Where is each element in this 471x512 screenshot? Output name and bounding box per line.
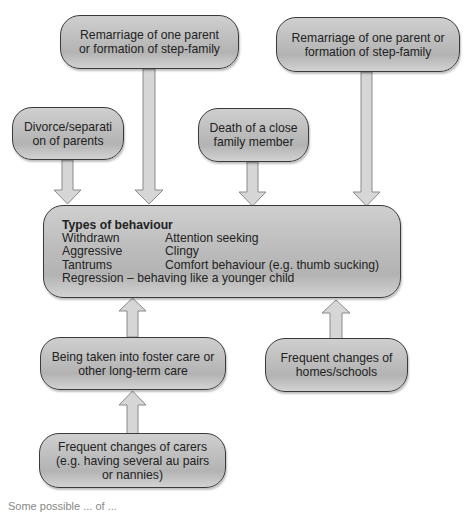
- cause-text: other long-term care: [52, 364, 215, 378]
- cause-box-homes-schools: Frequent changes of homes/schools: [265, 338, 408, 392]
- behaviour-item: Aggressive: [62, 245, 165, 258]
- behaviour-row: Aggressive Clingy: [62, 245, 400, 258]
- figure-caption: Some possible ... of ...: [8, 500, 117, 512]
- arrow-down-death: [239, 162, 266, 206]
- cause-text: Being taken into foster care or: [52, 350, 215, 364]
- cause-box-divorce: Divorce/separati on of parents: [12, 107, 124, 160]
- cause-text: Divorce/separati: [24, 120, 112, 134]
- behaviour-item: Comfort behaviour (e.g. thumb sucking): [165, 259, 379, 272]
- behaviour-regression: Regression – behaving like a younger chi…: [62, 272, 400, 285]
- behaviour-row: Tantrums Comfort behaviour (e.g. thumb s…: [62, 259, 400, 272]
- arrow-down-remarriage-1: [135, 69, 163, 204]
- cause-box-remarriage-1: Remarriage of one parent or formation of…: [60, 15, 239, 69]
- cause-text: Death of a close: [209, 121, 297, 135]
- cause-text: Remarriage of one parent or: [291, 31, 444, 45]
- cause-text: homes/schools: [281, 365, 393, 379]
- behaviour-item: Clingy: [165, 245, 199, 258]
- cause-text: Frequent changes of carers: [56, 440, 209, 454]
- cause-text: Frequent changes of: [281, 351, 393, 365]
- arrow-down-remarriage-2: [353, 72, 380, 206]
- behaviour-box: Types of behaviour Withdrawn Attention s…: [43, 205, 401, 298]
- cause-box-death: Death of a close family member: [198, 108, 309, 162]
- arrow-up-foster: [119, 298, 146, 337]
- cause-text: family member: [209, 135, 297, 149]
- cause-text: on of parents: [24, 134, 112, 148]
- cause-text: (e.g. having several au pairs: [56, 454, 209, 468]
- behaviour-item: Tantrums: [62, 259, 165, 272]
- cause-text: or formation of step-family: [79, 42, 220, 56]
- cause-box-foster-care: Being taken into foster care or other lo…: [40, 337, 226, 390]
- cause-text: or nannies): [56, 468, 209, 482]
- cause-box-remarriage-2: Remarriage of one parent or formation of…: [276, 17, 460, 72]
- arrow-down-divorce: [54, 160, 81, 204]
- arrow-up-carers: [119, 391, 146, 434]
- arrow-up-homes: [322, 300, 350, 339]
- cause-text: Remarriage of one parent: [79, 28, 220, 42]
- cause-box-carers: Frequent changes of carers (e.g. having …: [39, 433, 226, 488]
- cause-text: formation of step-family: [291, 45, 444, 59]
